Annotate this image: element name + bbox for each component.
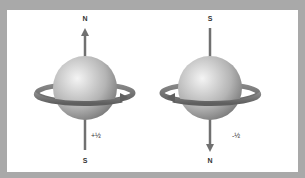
left-spin-label: +½ — [91, 132, 101, 139]
left-top-pole-label: N — [82, 15, 87, 22]
right-bottom-pole-label: N — [207, 157, 212, 164]
sphere — [53, 56, 117, 120]
arrow-down-icon — [206, 144, 214, 152]
sphere — [178, 56, 242, 120]
spin-diagram — [0, 0, 305, 178]
left-bottom-pole-label: S — [83, 157, 88, 164]
left-spin-model — [36, 28, 133, 150]
right-spin-model — [162, 28, 259, 152]
arrow-up-icon — [81, 28, 89, 36]
right-spin-label: -½ — [232, 132, 240, 139]
right-top-pole-label: S — [208, 15, 213, 22]
